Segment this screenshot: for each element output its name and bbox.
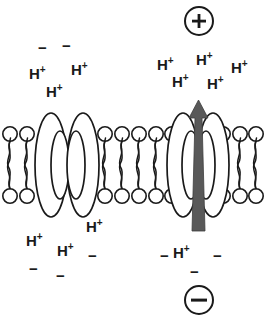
negative-ion-label: − bbox=[62, 38, 71, 53]
negative-ion-label: − bbox=[56, 268, 65, 283]
negative-ion-label: − bbox=[38, 40, 47, 55]
proton-ion-label: H+ bbox=[172, 74, 189, 89]
proton-ion-label: H+ bbox=[231, 60, 248, 75]
negative-ion-label: − bbox=[29, 261, 38, 276]
positive-charge-symbol bbox=[185, 7, 213, 35]
negative-ion-label: − bbox=[160, 248, 169, 263]
negative-charge-symbol bbox=[185, 286, 213, 314]
proton-ion-label: H+ bbox=[46, 84, 63, 99]
proton-ion-label: H+ bbox=[86, 219, 103, 234]
proton-ion-label: H+ bbox=[26, 233, 43, 248]
negative-ion-label: − bbox=[190, 264, 199, 279]
membrane-proton-gradient-diagram: −−H+H+H+ H+H+H+H+H+ H+H+H+−−− −H+−− bbox=[0, 0, 265, 322]
ion-channel-protein-left bbox=[35, 113, 99, 217]
proton-ion-label: H+ bbox=[196, 52, 213, 67]
proton-ion-label: H+ bbox=[207, 76, 224, 91]
proton-ion-label: H+ bbox=[71, 62, 88, 77]
negative-ion-label: − bbox=[88, 248, 97, 263]
proton-ion-label: H+ bbox=[57, 243, 74, 258]
negative-ion-label: − bbox=[213, 248, 222, 263]
proton-ion-label: H+ bbox=[173, 245, 190, 260]
proton-ion-label: H+ bbox=[29, 66, 46, 81]
proton-ion-label: H+ bbox=[157, 57, 174, 72]
